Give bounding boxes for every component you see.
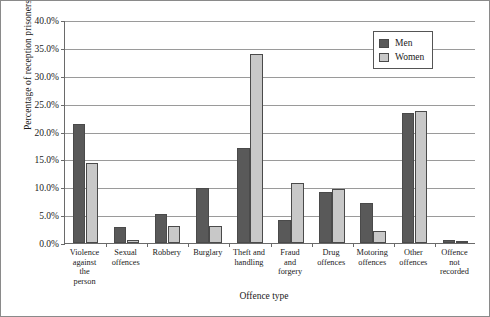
x-axis-tick-mark <box>394 243 395 247</box>
y-axis-tick-label: 5.0% <box>39 211 59 221</box>
y-axis-tick-label: 40.0% <box>34 16 59 26</box>
bar-men <box>360 203 373 243</box>
x-axis-tick-mark <box>106 243 107 247</box>
legend-item-men: Men <box>379 36 424 50</box>
bar-women <box>373 231 386 243</box>
bar-women <box>127 240 140 243</box>
x-axis-tick-mark <box>312 243 313 247</box>
y-axis-tick-label: 10.0% <box>34 183 59 193</box>
bar-group <box>435 21 476 243</box>
bar-group <box>147 21 188 243</box>
x-axis-tick-mark <box>435 243 436 247</box>
legend-label-women: Women <box>395 52 424 62</box>
y-axis-tick-label: 35.0% <box>34 44 59 54</box>
bar-women <box>456 241 469 243</box>
bar-group <box>106 21 147 243</box>
legend-swatch-men-icon <box>379 39 389 48</box>
y-axis-tick-label: 0.0% <box>39 239 59 249</box>
x-axis-tick-mark <box>271 243 272 247</box>
bar-men <box>114 227 127 243</box>
bar-chart-figure: Percentage of reception prisoners 0.0%5.… <box>0 0 490 317</box>
x-axis-tick-mark <box>147 243 148 247</box>
legend-item-women: Women <box>379 50 424 64</box>
y-axis-tick-label: 15.0% <box>34 155 59 165</box>
bar-women <box>250 54 263 243</box>
y-axis-tick-label: 30.0% <box>34 72 59 82</box>
x-axis-tick-mark <box>229 243 230 247</box>
x-axis-category-label: Offence not recorded <box>430 248 479 277</box>
x-axis-tick-mark <box>353 243 354 247</box>
bar-group <box>229 21 270 243</box>
bar-group <box>188 21 229 243</box>
x-axis-title-text: Offence type <box>239 291 288 301</box>
bar-women <box>291 183 304 243</box>
bar-men <box>319 192 332 243</box>
bar-women <box>415 111 428 243</box>
bar-group <box>65 21 106 243</box>
bar-men <box>443 240 456 243</box>
bar-women <box>86 163 99 243</box>
bar-group <box>312 21 353 243</box>
bar-men <box>196 188 209 243</box>
bar-men <box>155 214 168 243</box>
bar-men <box>402 113 415 243</box>
bar-women <box>209 226 222 243</box>
bar-men <box>278 220 291 243</box>
y-axis-tick-mark <box>61 244 65 245</box>
bar-women <box>168 226 181 243</box>
bar-women <box>332 189 345 243</box>
y-axis-tick-label: 20.0% <box>34 128 59 138</box>
x-axis-title: Offence type <box>1 291 489 301</box>
legend-swatch-women-icon <box>379 53 389 62</box>
bar-men <box>73 124 86 243</box>
bar-men <box>237 148 250 243</box>
x-axis-tick-mark <box>188 243 189 247</box>
y-axis-tick-label: 25.0% <box>34 100 59 110</box>
chart-legend: Men Women <box>373 31 433 69</box>
bar-group <box>271 21 312 243</box>
legend-label-men: Men <box>395 38 412 48</box>
